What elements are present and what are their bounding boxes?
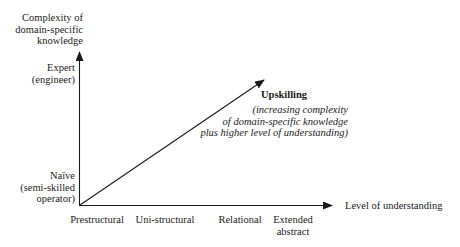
upskilling-description-line: plus higher level of understanding) xyxy=(200,127,348,139)
y-level-label: Naïve xyxy=(20,170,75,182)
y-axis-title: Complexity of domain-specific knowledge xyxy=(15,12,83,47)
y-level-label: (semi-skilled xyxy=(20,182,75,194)
upskilling-description-line: of domain-specific knowledge xyxy=(200,116,348,128)
y-axis-title-line: domain-specific xyxy=(15,24,83,36)
x-level-unistructural: Uni-structural xyxy=(125,214,205,226)
upskilling-arrow xyxy=(80,80,264,205)
y-level-expert: Expert (engineer) xyxy=(32,62,75,85)
x-level-label: Uni-structural xyxy=(125,214,205,226)
y-level-label: operator) xyxy=(20,193,75,205)
upskilling-description-line: (increasing complexity xyxy=(200,104,348,116)
x-level-label: Extended xyxy=(253,214,333,226)
y-level-label: (engineer) xyxy=(32,74,75,86)
y-level-label: Expert xyxy=(32,62,75,74)
upskilling-description: (increasing complexity of domain-specifi… xyxy=(200,104,348,139)
y-level-naive: Naïve (semi-skilled operator) xyxy=(20,170,75,205)
x-level-label: abstract xyxy=(253,226,333,238)
y-axis-title-line: Complexity of xyxy=(15,12,83,24)
x-axis-title: Level of understanding xyxy=(345,200,442,212)
upskilling-title: Upskilling xyxy=(261,89,307,101)
y-axis-title-line: knowledge xyxy=(15,35,83,47)
x-level-extended-abstract: Extended abstract xyxy=(253,214,333,237)
